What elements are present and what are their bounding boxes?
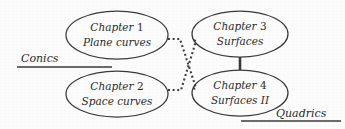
quadrics-label: Quadrics bbox=[276, 107, 327, 120]
node-chapter-2[interactable]: Chapter 2 Space curves bbox=[66, 71, 168, 117]
chapter-1-ellipse bbox=[66, 11, 168, 59]
dotted-connectors-group bbox=[168, 39, 196, 90]
chapter-dependency-diagram: Chapter 1 Plane curves Chapter 2 Space c… bbox=[0, 0, 345, 129]
diagram-canvas: Chapter 1 Plane curves Chapter 2 Space c… bbox=[0, 0, 345, 129]
node-chapter-1[interactable]: Chapter 1 Plane curves bbox=[66, 11, 168, 59]
node-chapter-3[interactable]: Chapter 3 Surfaces bbox=[192, 11, 288, 57]
chapter-2-subtitle: Space curves bbox=[82, 95, 153, 107]
connector-chapter1-to-chapter4 bbox=[168, 39, 196, 89]
group-label-quadrics: Quadrics bbox=[241, 107, 341, 121]
chapter-4-ellipse bbox=[192, 70, 288, 116]
conics-label: Conics bbox=[21, 52, 59, 65]
chapter-2-ellipse bbox=[66, 71, 168, 117]
chapter-1-subtitle: Plane curves bbox=[82, 36, 152, 48]
chapter-1-title: Chapter 1 bbox=[90, 21, 143, 33]
node-chapter-4[interactable]: Chapter 4 Surfaces II bbox=[192, 70, 288, 116]
chapter-4-subtitle: Surfaces II bbox=[211, 94, 270, 106]
chapter-3-subtitle: Surfaces bbox=[217, 35, 264, 47]
group-label-conics: Conics bbox=[17, 52, 112, 67]
connector-chapter2-to-chapter3 bbox=[168, 40, 196, 90]
chapter-3-title: Chapter 3 bbox=[213, 20, 266, 32]
chapter-2-title: Chapter 2 bbox=[90, 80, 143, 92]
chapter-4-title: Chapter 4 bbox=[213, 79, 267, 91]
chapter-3-ellipse bbox=[192, 11, 288, 57]
